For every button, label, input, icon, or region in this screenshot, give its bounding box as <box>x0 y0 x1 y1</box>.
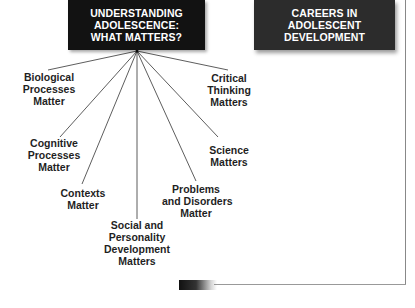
careers-line-1: CAREERS IN <box>284 7 365 19</box>
branch-critical: Critical Thinking Matters <box>200 72 258 108</box>
connector-biological <box>48 51 137 70</box>
branch-contexts: Contexts Matter <box>60 187 106 211</box>
careers-line-3: DEVELOPMENT <box>284 31 365 43</box>
branch-text: Matters <box>104 255 170 267</box>
main-topic-line-1: UNDERSTANDING <box>90 7 183 19</box>
branch-text: Matter <box>18 95 80 107</box>
branch-text: Social and <box>104 219 170 231</box>
branch-text: Matter <box>26 161 82 173</box>
branch-text: Matters <box>206 156 252 168</box>
branch-science: Science Matters <box>206 144 252 168</box>
main-topic-line-2: ADOLESCENCE: <box>90 19 183 31</box>
branch-text: Processes <box>18 83 80 95</box>
connector-problems <box>137 51 196 181</box>
careers-box: CAREERS IN ADOLESCENT DEVELOPMENT <box>254 0 395 50</box>
branch-text: Biological <box>18 71 80 83</box>
branch-text: Critical <box>200 72 258 84</box>
careers-panel-bottom-border <box>214 284 406 285</box>
branch-cognitive: Cognitive Processes Matter <box>26 137 82 173</box>
branch-text: Science <box>206 144 252 156</box>
branch-text: and Disorders <box>162 195 230 207</box>
branch-text: Matters <box>200 96 258 108</box>
gradient-tab-decoration <box>179 280 217 290</box>
diagram-canvas: UNDERSTANDING ADOLESCENCE: WHAT MATTERS?… <box>0 0 415 308</box>
careers-line-2: ADOLESCENT <box>284 19 365 31</box>
careers-panel-right-border <box>405 0 406 285</box>
branch-text: Thinking <box>200 84 258 96</box>
branch-text: Cognitive <box>26 137 82 149</box>
branch-problems: Problems and Disorders Matter <box>162 183 230 219</box>
branch-text: Personality <box>104 231 170 243</box>
branch-text: Matter <box>162 207 230 219</box>
connector-critical <box>137 51 228 70</box>
main-topic-box: UNDERSTANDING ADOLESCENCE: WHAT MATTERS? <box>68 0 205 50</box>
branch-biological: Biological Processes Matter <box>18 71 80 107</box>
branch-text: Matter <box>60 199 106 211</box>
branch-social: Social and Personality Development Matte… <box>104 219 170 267</box>
branch-text: Problems <box>162 183 230 195</box>
branch-text: Development <box>104 243 170 255</box>
main-topic-line-3: WHAT MATTERS? <box>90 31 183 43</box>
branch-text: Processes <box>26 149 82 161</box>
branch-text: Contexts <box>60 187 106 199</box>
connector-contexts <box>82 51 137 184</box>
